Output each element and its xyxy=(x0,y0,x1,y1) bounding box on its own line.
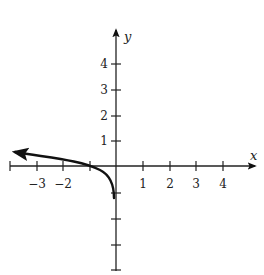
y-tick-label: 3 xyxy=(100,83,108,97)
x-tick-label: 3 xyxy=(192,177,200,191)
x-tick-label: 2 xyxy=(166,177,174,191)
x-axis-label: x xyxy=(250,148,258,163)
x-tick-label: −2 xyxy=(54,177,72,191)
y-tick-label: 2 xyxy=(100,109,108,123)
graph: −3 −2 1 2 3 4 4 3 2 1 x y xyxy=(0,0,264,275)
function-curve xyxy=(15,152,114,198)
y-tick-label: 1 xyxy=(100,134,108,148)
y-tick-label: 4 xyxy=(100,57,108,71)
x-tick-label: 4 xyxy=(219,177,227,191)
x-tick-label: −3 xyxy=(28,177,46,191)
y-axis-label: y xyxy=(123,29,132,44)
x-tick-label: 1 xyxy=(139,177,147,191)
